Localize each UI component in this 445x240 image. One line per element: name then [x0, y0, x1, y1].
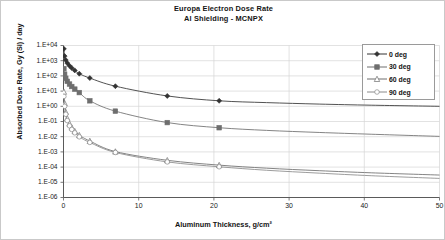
data-point-marker: [72, 131, 77, 136]
data-point-marker: [77, 90, 82, 95]
legend-marker-filled-square-icon: [366, 61, 388, 73]
x-tick-label: 0: [51, 202, 77, 209]
data-point-marker: [63, 112, 68, 117]
x-tick-label: 30: [276, 202, 302, 209]
legend-marker-filled-diamond-icon: [366, 48, 388, 60]
y-tick-label: 1.E-01: [18, 117, 58, 124]
y-tick-label: 1.E-03: [18, 148, 58, 155]
data-point-marker: [72, 87, 77, 92]
data-point-marker: [77, 135, 82, 140]
legend-label: 60 deg: [389, 76, 411, 83]
data-point-marker: [62, 94, 67, 99]
y-tick-label: 1.E+02: [18, 72, 58, 79]
x-tick-label: 40: [351, 202, 377, 209]
legend-item-0-deg[interactable]: 0 deg: [363, 48, 434, 61]
y-tick-label: 1.E+01: [18, 87, 58, 94]
x-tick-label: 10: [126, 202, 152, 209]
y-tick-label: 1.E-05: [18, 178, 58, 185]
data-point-marker: [217, 125, 222, 130]
chart-legend: 0 deg30 deg60 deg90 deg: [362, 44, 435, 100]
legend-item-30-deg[interactable]: 30 deg: [363, 61, 434, 74]
y-tick-label: 1.E+03: [18, 57, 58, 64]
data-point-marker: [88, 99, 93, 104]
y-tick-label: 1.E-04: [18, 163, 58, 170]
data-point-marker: [375, 52, 380, 57]
legend-label: 30 deg: [389, 63, 411, 70]
legend-item-90-deg[interactable]: 90 deg: [363, 86, 434, 99]
legend-marker-open-triangle-icon: [366, 73, 388, 85]
x-tick-label: 50: [427, 202, 445, 209]
data-point-marker: [113, 150, 118, 155]
legend-label: 0 deg: [389, 51, 407, 58]
y-tick-label: 1.E-06: [18, 193, 58, 200]
y-tick-label: 1.E+04: [18, 41, 58, 48]
data-point-marker: [375, 65, 380, 70]
figure-caption: [4, 232, 443, 240]
legend-marker-open-circle-icon: [366, 86, 388, 98]
x-tick-label: 20: [201, 202, 227, 209]
data-point-marker: [165, 160, 170, 165]
data-point-marker: [65, 118, 70, 123]
data-point-marker: [113, 109, 118, 114]
data-point-marker: [62, 104, 67, 109]
y-tick-label: 1.E+00: [18, 102, 58, 109]
y-tick-label: 1.E-02: [18, 133, 58, 140]
data-point-marker: [88, 140, 93, 145]
data-point-marker: [375, 90, 380, 95]
legend-item-60-deg[interactable]: 60 deg: [363, 73, 434, 86]
legend-label: 90 deg: [389, 89, 411, 96]
data-point-marker: [217, 164, 222, 169]
data-point-marker: [165, 120, 170, 125]
chart-figure: Europa Electron Dose Rate Al Shielding -…: [0, 0, 445, 240]
data-point-marker: [62, 66, 67, 71]
